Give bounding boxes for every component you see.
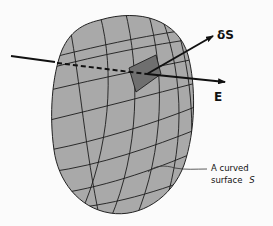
annotation-symbol: S bbox=[249, 175, 254, 185]
annotation-line1: A curved bbox=[211, 163, 249, 173]
annotation-line2: surface S bbox=[211, 175, 255, 185]
diagram-canvas: δS E A curved surface S bbox=[0, 0, 273, 226]
field-line-incoming bbox=[11, 56, 55, 62]
label-dS: δS bbox=[217, 28, 234, 42]
label-E: E bbox=[214, 90, 222, 104]
annotation-word: surface bbox=[211, 175, 242, 185]
